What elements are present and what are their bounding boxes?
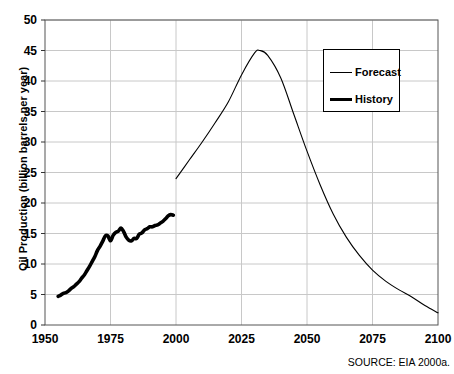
x-axis-tick-label: 2075 bbox=[351, 332, 395, 346]
x-axis-tick-label: 2025 bbox=[220, 332, 264, 346]
y-axis-tick-label: 40 bbox=[11, 74, 37, 88]
y-axis-tick-label: 20 bbox=[11, 196, 37, 210]
x-axis-tick-label: 2050 bbox=[285, 332, 329, 346]
y-axis-tick-label: 5 bbox=[11, 288, 37, 302]
legend-line-history-icon bbox=[330, 98, 352, 101]
y-axis-tick-label: 30 bbox=[11, 135, 37, 149]
source-note: SOURCE: EIA 2000a. bbox=[348, 356, 450, 368]
y-axis-tick-label: 0 bbox=[11, 318, 37, 332]
y-axis-tick-label: 45 bbox=[11, 44, 37, 58]
x-axis-tick-label: 1950 bbox=[23, 332, 67, 346]
y-axis-tick-label: 15 bbox=[11, 227, 37, 241]
x-axis-tick-label: 2100 bbox=[416, 332, 454, 346]
y-axis-tick-label: 10 bbox=[11, 257, 37, 271]
x-axis-tick-label: 2000 bbox=[154, 332, 198, 346]
legend-item-history: History bbox=[324, 90, 399, 108]
oil-production-chart: Oil Production (billion barrels per year… bbox=[0, 0, 454, 374]
legend-line-forecast-icon bbox=[330, 72, 352, 73]
legend-label-forecast: Forecast bbox=[355, 66, 401, 78]
y-axis-tick-label: 50 bbox=[11, 13, 37, 27]
y-axis-tick-label: 25 bbox=[11, 166, 37, 180]
series-line-history bbox=[58, 215, 173, 297]
chart-legend: Forecast History bbox=[323, 49, 400, 112]
legend-item-forecast: Forecast bbox=[324, 63, 399, 81]
x-axis-tick-label: 1975 bbox=[89, 332, 133, 346]
legend-label-history: History bbox=[355, 93, 393, 105]
y-axis-tick-label: 35 bbox=[11, 105, 37, 119]
